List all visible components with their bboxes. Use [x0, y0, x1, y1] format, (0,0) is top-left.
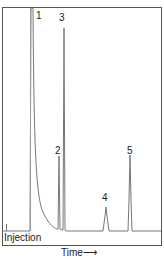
- peak-label-4: 4: [102, 193, 108, 203]
- plot-frame: [3, 8, 162, 246]
- peak-label-1: 1: [36, 11, 42, 21]
- peak-label-5: 5: [127, 146, 133, 156]
- chromatogram-chart: [0, 0, 164, 262]
- x-axis-label: Time⟶: [61, 248, 97, 258]
- x-axis-label-text: Time: [61, 247, 83, 258]
- arrow-right-icon: ⟶: [83, 247, 97, 258]
- peak-label-2: 2: [55, 146, 61, 156]
- injection-label: Injection: [4, 233, 41, 243]
- peak-label-3: 3: [59, 13, 65, 23]
- chromatogram-trace: [3, 8, 161, 231]
